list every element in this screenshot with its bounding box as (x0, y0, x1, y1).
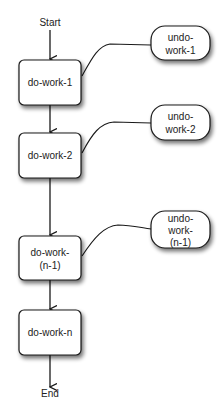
connector-do-work-n-1-undo-work-n-1 (82, 225, 151, 256)
start-label: Start (39, 17, 60, 28)
do-node-do-work-n: do-work-n (19, 310, 81, 355)
undo-work-2-label-line2: work-2 (164, 124, 195, 135)
end-label: End (41, 388, 59, 399)
flow-diagram: Start do-work-1 do-work-2 do-work- (n-1)… (0, 0, 223, 409)
do-work-1-label: do-work-1 (28, 77, 73, 88)
do-node-do-work-n-1: do-work- (n-1) (19, 236, 81, 280)
do-node-do-work-1: do-work-1 (19, 60, 81, 105)
undo-node-undo-work-n-1: undo- work- (n-1) (151, 211, 210, 248)
do-work-n-label: do-work-n (28, 327, 72, 338)
do-node-do-work-2: do-work-2 (19, 133, 81, 178)
undo-work-2-label-line1: undo- (168, 111, 194, 122)
connector-do-work-2-undo-work-2 (82, 122, 151, 153)
do-work-n-1-label-line1: do-work- (31, 247, 70, 258)
connector-do-work-1-undo-work-1 (82, 44, 151, 76)
undo-work-n-1-label-line1: undo- (168, 213, 194, 224)
undo-node-undo-work-1: undo- work-1 (151, 26, 210, 60)
undo-node-undo-work-2: undo- work-2 (151, 105, 210, 140)
do-work-2-label: do-work-2 (28, 150, 73, 161)
undo-work-n-1-label-line3: (n-1) (170, 237, 191, 248)
do-work-n-1-label-line2: (n-1) (39, 260, 60, 271)
undo-work-n-1-label-line2: work- (167, 225, 192, 236)
undo-work-1-label-line2: work-1 (164, 45, 195, 56)
undo-work-1-label-line1: undo- (168, 32, 194, 43)
